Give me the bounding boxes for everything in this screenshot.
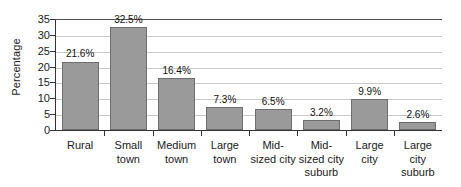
y-axis-tick-label: 20: [26, 61, 50, 73]
x-axis-category-label: Largetown: [211, 139, 239, 166]
x-axis-category-label: Rural: [67, 139, 93, 153]
y-axis-tick-label: 10: [26, 92, 50, 104]
x-axis-tick-mark: [394, 131, 395, 136]
x-axis-category-label: Mediumtown: [157, 139, 196, 166]
bar: [351, 99, 388, 130]
bars-layer: 21.6%32.5%16.4%7.3%6.5%3.2%9.9%2.6%: [56, 19, 442, 130]
bar: [399, 122, 436, 130]
bar: [110, 27, 147, 130]
bar-data-label: 16.4%: [162, 65, 190, 76]
bar-data-label: 9.9%: [358, 86, 381, 97]
bar: [62, 62, 99, 131]
x-axis-category-label: Mid-sized city: [251, 139, 296, 166]
bar-data-label: 32.5%: [114, 14, 142, 25]
y-axis-tick-mark: [50, 35, 55, 36]
y-axis-tick-label: 25: [26, 45, 50, 57]
x-axis-category-label: Largecitysuburb: [401, 139, 435, 180]
y-axis-tick-mark: [50, 114, 55, 115]
y-axis-tick-label: 15: [26, 76, 50, 88]
x-axis-category-label: Largecity: [356, 139, 384, 166]
bar: [206, 107, 243, 130]
bar: [255, 109, 292, 130]
bar-data-label: 21.6%: [66, 48, 94, 59]
y-axis-tick-mark: [50, 98, 55, 99]
bar: [158, 78, 195, 130]
y-axis-tick-mark: [50, 82, 55, 83]
y-axis-tick-mark: [50, 130, 55, 131]
bar-data-label: 6.5%: [262, 96, 285, 107]
y-axis-tick-mark: [50, 51, 55, 52]
x-axis-category-labels: RuralSmalltownMediumtownLargetownMid-siz…: [56, 139, 442, 185]
bar-chart: Percentage 35302520151050 21.6%32.5%16.4…: [0, 0, 461, 187]
bar-data-label: 7.3%: [213, 94, 236, 105]
x-axis-tick-mark: [201, 131, 202, 136]
bar-data-label: 3.2%: [310, 107, 333, 118]
bar-data-label: 2.6%: [406, 109, 429, 120]
y-axis-title: Percentage: [8, 2, 24, 132]
y-axis-tick-label: 30: [26, 29, 50, 41]
x-axis-tick-mark: [346, 131, 347, 136]
x-axis-tick-mark: [297, 131, 298, 136]
y-axis-tick-label: 0: [26, 124, 50, 136]
x-axis-category-label: Mid-sized citysuburb: [299, 139, 344, 180]
x-axis-category-label: Smalltown: [115, 139, 143, 166]
bar: [303, 120, 340, 130]
y-axis-tick-mark: [50, 19, 55, 20]
x-axis-tick-mark: [104, 131, 105, 136]
x-axis-tick-mark: [249, 131, 250, 136]
y-axis-tick-label: 5: [26, 108, 50, 120]
y-axis-tick-mark: [50, 67, 55, 68]
y-axis-tick-label: 35: [26, 13, 50, 25]
y-axis-tick-labels: 35302520151050: [26, 12, 50, 137]
x-axis-tick-mark: [153, 131, 154, 136]
